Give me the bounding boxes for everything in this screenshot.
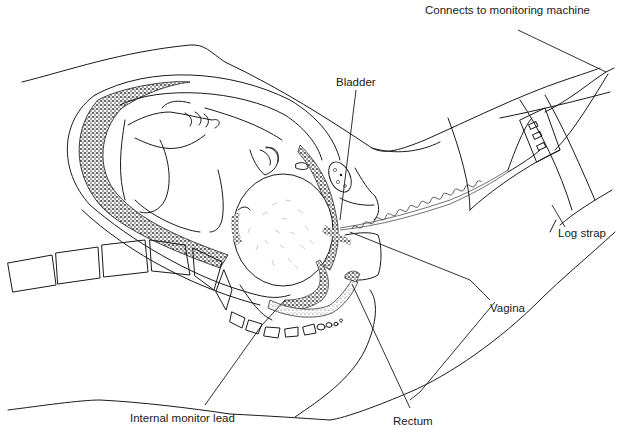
diagram-illustration (0, 0, 625, 434)
label-internal-monitor-lead: Internal monitor lead (130, 413, 235, 425)
label-log-strap: Log strap (558, 228, 606, 240)
label-bladder: Bladder (336, 77, 376, 89)
label-monitoring-machine: Connects to monitoring machine (425, 5, 590, 17)
label-vagina: Vagina (490, 303, 525, 315)
monitor-wire (340, 170, 508, 231)
label-rectum: Rectum (393, 416, 433, 428)
fetus (120, 101, 333, 310)
fetal-monitoring-diagram: Connects to monitoring machine Bladder L… (0, 0, 625, 434)
